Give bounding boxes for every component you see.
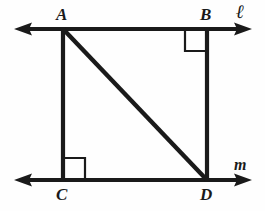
- line-m: [14, 174, 252, 187]
- geometry-figure: A B C D ℓ m: [0, 0, 265, 211]
- line-label-l: ℓ: [236, 2, 244, 21]
- right-angle-mark-C: [63, 158, 85, 180]
- geometry-canvas: [0, 0, 265, 211]
- point-label-C: C: [56, 186, 67, 203]
- right-angle-mark-B: [185, 29, 207, 51]
- point-label-D: D: [200, 186, 212, 203]
- point-label-B: B: [200, 6, 211, 23]
- point-label-A: A: [56, 6, 67, 23]
- segment-AD: [64, 30, 206, 179]
- line-label-m: m: [234, 157, 246, 173]
- line-l: [14, 23, 252, 36]
